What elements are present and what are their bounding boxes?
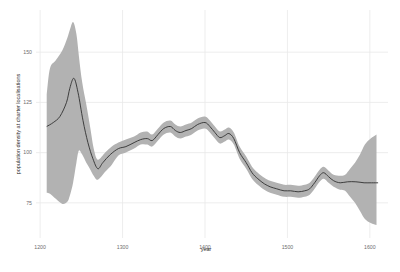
y-tick-label: 125 xyxy=(23,99,32,105)
y-tick-label: 150 xyxy=(23,49,32,55)
plot-area: 1200130014001500160075100125150 xyxy=(0,0,400,272)
y-axis-title: population density at charter localisati… xyxy=(15,74,21,175)
x-axis-title: year xyxy=(121,246,291,252)
y-tick-label: 75 xyxy=(26,200,32,206)
x-tick-label: 1600 xyxy=(364,244,376,250)
chart-figure: 1200130014001500160075100125150 year pop… xyxy=(0,0,400,272)
y-tick-label: 100 xyxy=(23,149,32,155)
x-tick-label: 1200 xyxy=(34,244,46,250)
